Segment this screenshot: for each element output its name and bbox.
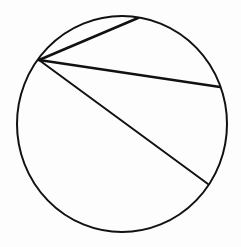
chord-right <box>39 60 220 87</box>
diagram-canvas <box>0 0 241 247</box>
chord-top <box>39 18 138 60</box>
circle-chords-diagram <box>0 0 241 247</box>
circle <box>17 16 227 232</box>
chord-lower <box>39 60 208 184</box>
